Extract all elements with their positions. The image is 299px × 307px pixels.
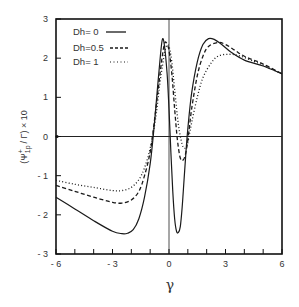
y-tick-label: - 2 <box>37 210 48 220</box>
y-tick-label: 3 <box>43 14 48 24</box>
y-tick-label: - 1 <box>37 171 48 181</box>
x-axis-label: γ <box>166 277 174 293</box>
x-tick-label: - 6 <box>51 259 62 269</box>
x-tick-label: 6 <box>279 259 284 269</box>
y-label-sub: 1p <box>24 145 32 153</box>
chart: - 6- 3036 - 3- 2- 10123 Dh= 0 Dh=0.5 Dh=… <box>0 0 299 307</box>
x-tick-label: 3 <box>223 259 228 269</box>
y-tick-label: 0 <box>43 132 48 142</box>
x-tick-label: - 3 <box>107 259 118 269</box>
y-label-main: (Ψ <box>19 153 29 164</box>
y-label-sup: + <box>17 149 24 153</box>
legend-label-dh05: Dh=0.5 <box>73 42 104 53</box>
legend-label-dh0: Dh= 0 <box>73 26 99 37</box>
y-tick-label: 2 <box>43 53 48 63</box>
y-label-tail: / Γ) × 10 <box>19 110 29 143</box>
x-tick-label: 0 <box>166 259 171 269</box>
y-tick-label: - 3 <box>37 249 48 259</box>
legend-label-dh1: Dh= 1 <box>73 56 99 67</box>
y-tick-label: 1 <box>43 92 48 102</box>
